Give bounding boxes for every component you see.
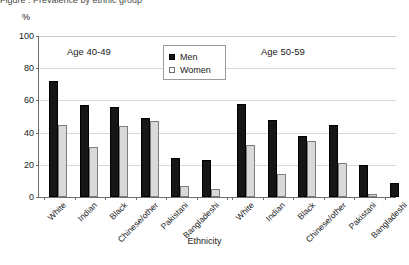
legend-swatch-men-icon xyxy=(169,54,175,60)
bar-women-white-p2 xyxy=(246,145,255,197)
y-tick-label-60: 60 xyxy=(10,95,34,105)
x-label-white-p2: White xyxy=(234,200,256,222)
bar-men-indian-p2 xyxy=(268,120,277,197)
bar-men-chinese-other-p1 xyxy=(141,118,150,197)
bar-men-white-p2 xyxy=(237,104,246,197)
cropped-caption: Figure : Prevalence by ethnic group xyxy=(0,0,409,6)
legend: Men Women xyxy=(163,45,226,80)
bar-women-indian-p2 xyxy=(277,174,286,197)
y-tick-mark-100 xyxy=(36,36,39,37)
y-tick-label-40: 40 xyxy=(10,128,34,138)
bar-women-black-p2 xyxy=(307,141,316,197)
x-axis-title: Ethnicity xyxy=(0,236,409,246)
bar-women-white-p1 xyxy=(58,125,67,197)
bar-men-chinese-other-p2 xyxy=(329,125,338,197)
x-label-black-p2: Black xyxy=(295,200,317,222)
bar-women-chinese-other-p2 xyxy=(338,163,347,197)
x-label-indian-p2: Indian xyxy=(263,200,286,223)
bar-women-bangladeshi-p1 xyxy=(211,189,220,197)
bar-men-pakistani-p2 xyxy=(359,165,368,197)
legend-item-men: Men xyxy=(169,50,220,63)
x-label-indian-p1: Indian xyxy=(75,200,98,223)
gridline-40 xyxy=(39,133,396,134)
x-label-black-p1: Black xyxy=(107,200,129,222)
y-tick-mark-40 xyxy=(36,133,39,134)
x-label-white-p1: White xyxy=(46,200,68,222)
bar-men-indian-p1 xyxy=(80,105,89,197)
gridline-100 xyxy=(39,36,396,37)
y-tick-mark-60 xyxy=(36,100,39,101)
bar-men-bangladeshi-p2 xyxy=(390,183,399,197)
bar-women-black-p1 xyxy=(119,126,128,197)
legend-swatch-women-icon xyxy=(169,67,175,73)
y-tick-label-100: 100 xyxy=(10,31,34,41)
bar-men-black-p2 xyxy=(298,136,307,197)
bar-men-white-p1 xyxy=(49,81,58,197)
y-axis-tick-labels: 020406080100 xyxy=(8,36,34,197)
panel-title-age-50-59: Age 50-59 xyxy=(261,46,305,57)
y-tick-label-80: 80 xyxy=(10,63,34,73)
bar-women-chinese-other-p1 xyxy=(150,121,159,197)
bar-chart: Figure : Prevalence by ethnic group % 02… xyxy=(0,0,409,265)
legend-item-women: Women xyxy=(169,63,220,76)
y-tick-mark-20 xyxy=(36,165,39,166)
bar-men-black-p1 xyxy=(110,107,119,197)
y-tick-mark-80 xyxy=(36,68,39,69)
bar-men-pakistani-p1 xyxy=(171,158,180,197)
panel-title-age-40-49: Age 40-49 xyxy=(67,46,111,57)
bar-men-bangladeshi-p1 xyxy=(202,160,211,197)
gridline-60 xyxy=(39,100,396,101)
legend-label-men: Men xyxy=(180,52,198,62)
y-axis-unit-label: % xyxy=(22,12,30,22)
legend-label-women: Women xyxy=(180,65,211,75)
bar-women-pakistani-p1 xyxy=(180,186,189,197)
bar-women-indian-p1 xyxy=(89,147,98,197)
y-tick-label-20: 20 xyxy=(10,160,34,170)
